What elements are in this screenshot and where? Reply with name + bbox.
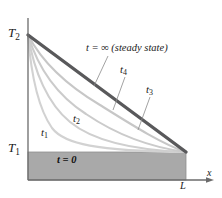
x-tick-label-L: L xyxy=(180,181,186,192)
leader-line-steady-state xyxy=(94,56,108,86)
annotation-t2: t2 xyxy=(73,113,80,126)
transient-conduction-figure: T2 T1 L x t = ∞ (steady state) t4 t3 t2 … xyxy=(0,0,222,198)
annotation-t4: t4 xyxy=(120,64,127,77)
y-tick-label-T2: T2 xyxy=(8,26,20,42)
slab-block-t0 xyxy=(28,152,186,180)
annotation-t3: t3 xyxy=(146,84,153,97)
x-axis-arrowhead xyxy=(206,177,214,183)
x-axis-label: x xyxy=(207,168,211,178)
y-tick-label-T1: T1 xyxy=(8,141,20,157)
annotation-t0: t = 0 xyxy=(57,155,76,166)
annotation-t1: t1 xyxy=(41,127,48,140)
annotation-steady-state: t = ∞ (steady state) xyxy=(86,43,168,54)
figure-canvas xyxy=(0,0,222,198)
